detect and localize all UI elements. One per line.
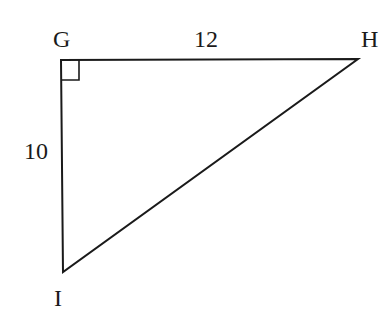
triangle-diagram: G H I 12 10: [0, 0, 391, 318]
triangle-ghi: [61, 59, 358, 272]
side-label-gh: 12: [194, 26, 218, 52]
side-label-gi: 10: [24, 138, 48, 164]
vertex-label-h: H: [361, 26, 378, 52]
vertex-label-g: G: [53, 26, 70, 52]
vertex-label-i: I: [54, 285, 62, 311]
right-angle-marker: [61, 60, 79, 80]
